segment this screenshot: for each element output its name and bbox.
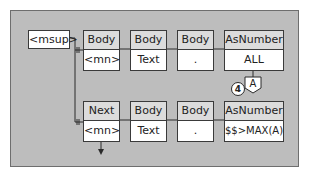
node-value: .: [178, 50, 213, 70]
node-header: Body: [178, 31, 213, 50]
node-value: Text: [131, 50, 166, 70]
node-header: AsNumber: [225, 102, 283, 121]
row1-node-3: Body .: [177, 30, 214, 71]
row1-node-asnumber: AsNumber ALL: [224, 30, 284, 71]
node-header: Body: [84, 31, 119, 50]
node-header: Body: [131, 31, 166, 50]
node-value: .: [178, 121, 213, 141]
row2-node-asnumber: AsNumber $$>MAX(A): [224, 101, 284, 142]
row2-node-3: Body .: [177, 101, 214, 142]
row1-node-2: Body Text: [130, 30, 167, 71]
row2-node-next: Next <mn>: [83, 101, 120, 142]
node-value: <mn>: [84, 121, 119, 141]
node-header: Next: [84, 102, 119, 121]
node-header: Body: [178, 102, 213, 121]
variable-badge-label: A: [243, 78, 263, 89]
node-value: ALL: [225, 50, 283, 70]
node-value: Text: [131, 121, 166, 141]
row2-node-2: Body Text: [130, 101, 167, 142]
row1-node-1: Body <mn>: [83, 30, 120, 71]
node-value: $$>MAX(A): [225, 121, 283, 141]
step-marker: 4: [231, 82, 245, 96]
msup-node: <msup>: [28, 30, 70, 49]
node-header: AsNumber: [225, 31, 283, 50]
connector-lines: [0, 0, 309, 183]
node-header: Body: [131, 102, 166, 121]
node-value: <mn>: [84, 50, 119, 70]
